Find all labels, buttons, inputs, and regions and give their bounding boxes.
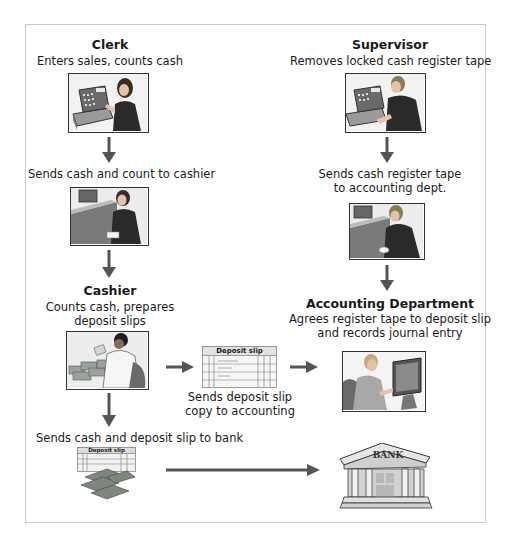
accounting-caption-line2: and records journal entry xyxy=(285,326,495,340)
accountant-at-computer-icon xyxy=(342,351,426,412)
cashier-counting-cash-icon xyxy=(66,331,149,390)
deposit-slip-label: Deposit slip xyxy=(202,347,277,355)
supervisor-at-register-icon xyxy=(345,73,426,133)
arrow-down-cashier xyxy=(102,393,116,427)
cashier-title: Cashier xyxy=(45,284,175,298)
arrow-right-deposit-slip xyxy=(290,361,318,373)
supervisor-send-caption-line1: Sends cash register tape xyxy=(300,167,480,181)
bank-label: BANK xyxy=(368,450,408,460)
supervisor-caption: Removes locked cash register tape xyxy=(290,54,490,68)
clerk-at-register-icon xyxy=(68,73,149,133)
cashier-caption-line1: Counts cash, prepares xyxy=(25,300,195,314)
accounting-title: Accounting Department xyxy=(300,297,480,311)
arrow-down-clerk-send xyxy=(102,250,116,278)
accounting-caption-line1: Agrees register tape to deposit slip xyxy=(285,312,495,326)
deposit-slip-icon: Deposit slip xyxy=(202,346,277,388)
arrow-down-supervisor-send xyxy=(380,265,394,291)
arrow-down-supervisor xyxy=(380,137,394,163)
deposit-copy-caption-line1: Sends deposit slip xyxy=(180,390,300,404)
bank-building-icon: BANK xyxy=(338,443,433,509)
clerk-title: Clerk xyxy=(45,38,175,52)
supervisor-handing-tape-icon xyxy=(349,203,425,260)
deposit-slip-bank-label: Deposit slip xyxy=(77,447,136,454)
arrow-right-to-bank xyxy=(166,464,320,476)
supervisor-send-caption-line2: to accounting dept. xyxy=(300,181,480,195)
cashier-caption-line2: deposit slips xyxy=(25,314,195,328)
arrow-right-cashier xyxy=(166,361,194,373)
deposit-slip-with-cash-icon: Deposit slip xyxy=(77,447,136,501)
clerk-handing-cash-icon xyxy=(70,187,149,246)
to-bank-caption: Sends cash and deposit slip to bank xyxy=(25,431,256,445)
supervisor-title: Supervisor xyxy=(325,38,455,52)
deposit-copy-caption-line2: copy to accounting xyxy=(180,404,300,418)
clerk-send-caption: Sends cash and count to cashier xyxy=(25,167,198,181)
clerk-caption: Enters sales, counts cash xyxy=(25,54,195,68)
arrow-down-clerk xyxy=(102,137,116,163)
